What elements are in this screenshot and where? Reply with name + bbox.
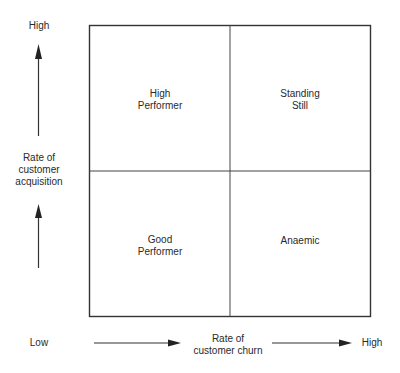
quadrant-standing-still: Standing Still xyxy=(250,88,350,112)
x-axis-left-arrow-icon xyxy=(94,340,181,347)
x-axis-title: Rate of customer churn xyxy=(190,333,266,357)
x-axis-right-arrow-icon xyxy=(272,340,352,347)
x-axis-low-label: Low xyxy=(22,337,56,349)
quadrant-good-performer: Good Performer xyxy=(110,234,210,258)
y-axis-lower-arrow-icon xyxy=(35,204,42,268)
y-axis-high-label: High xyxy=(22,20,56,32)
quadrant-anaemic: Anaemic xyxy=(250,235,350,247)
y-axis-title: Rate of customer acquisition xyxy=(8,152,70,188)
y-axis-upper-arrow-icon xyxy=(35,44,42,136)
quadrant-high-performer: High Performer xyxy=(110,88,210,112)
x-axis-high-label: High xyxy=(358,337,386,349)
